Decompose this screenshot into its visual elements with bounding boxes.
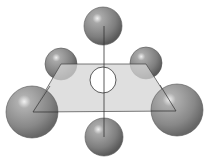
molecule-diagram xyxy=(0,0,210,162)
atom-front-right xyxy=(151,84,203,136)
central-atom xyxy=(90,67,116,93)
atom-axial-bottom xyxy=(85,118,123,156)
atom-front-left xyxy=(6,86,58,138)
atom-axial-top xyxy=(84,7,122,45)
